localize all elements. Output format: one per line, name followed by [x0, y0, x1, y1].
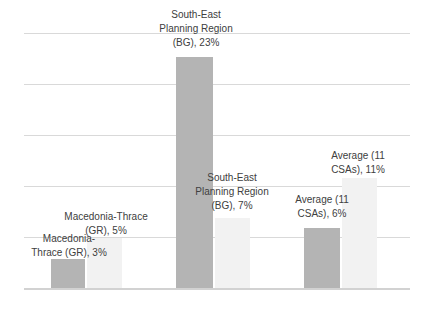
label-line: (BG), 7% [195, 199, 268, 213]
label-line: CSAs), 6% [295, 207, 349, 221]
label-line: Planning Region [159, 22, 232, 36]
gridline-15pct [24, 135, 410, 136]
data-label-average-11pct: Average (11 CSAs), 11% [331, 149, 385, 177]
data-label-macedonia-thrace-5pct: Macedonia-Thrace (GR), 5% [64, 210, 147, 238]
bar-south-east-7pct [215, 218, 250, 289]
label-line: South-East [195, 171, 268, 185]
label-line: (BG), 23% [159, 36, 232, 50]
label-line: (GR), 5% [64, 224, 147, 238]
label-line: Macedonia-Thrace [64, 210, 147, 224]
data-label-south-east-7pct: South-East Planning Region (BG), 7% [195, 171, 268, 213]
data-label-south-east-23pct: South-East Planning Region (BG), 23% [159, 8, 232, 50]
label-line: CSAs), 11% [331, 163, 385, 177]
label-line: South-East [159, 8, 232, 22]
gridline-20pct [24, 84, 410, 85]
bar-chart: Macedonia- Thrace (GR), 3% Macedonia-Thr… [0, 0, 423, 312]
x-axis-line [24, 288, 410, 290]
bar-macedonia-thrace-3pct [51, 259, 85, 289]
label-line: Average (11 [331, 149, 385, 163]
label-line: Planning Region [195, 185, 268, 199]
bar-average-6pct [304, 228, 340, 289]
label-line: Thrace (GR), 3% [31, 246, 107, 260]
label-line: Average (11 [295, 193, 349, 207]
data-label-average-6pct: Average (11 CSAs), 6% [295, 193, 349, 221]
